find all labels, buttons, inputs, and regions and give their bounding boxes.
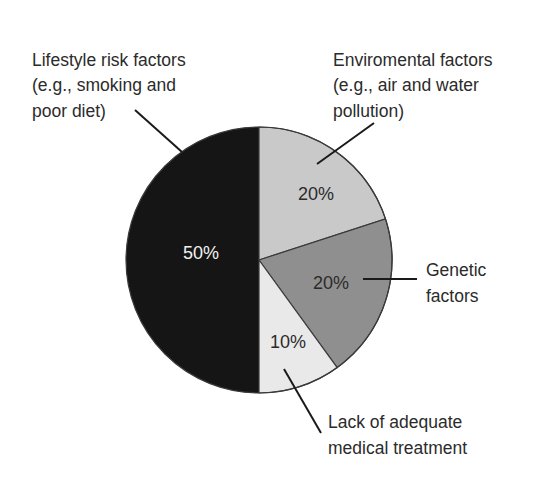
leader-environmental bbox=[317, 123, 374, 164]
label-medical: Lack of adequate medical treatment bbox=[328, 412, 467, 458]
leader-lifestyle bbox=[135, 110, 182, 152]
svg-text:Enviromental factors: Enviromental factors bbox=[333, 50, 493, 70]
svg-text:factors: factors bbox=[426, 286, 479, 306]
pct-environmental: 20% bbox=[298, 184, 334, 204]
svg-text:medical treatment: medical treatment bbox=[328, 438, 467, 458]
label-environmental: Enviromental factors (e.g., air and wate… bbox=[333, 50, 493, 121]
svg-text:pollution): pollution) bbox=[333, 101, 404, 121]
svg-text:Lifestyle risk factors: Lifestyle risk factors bbox=[32, 50, 186, 70]
svg-text:Genetic: Genetic bbox=[426, 260, 487, 280]
svg-text:(e.g., smoking and: (e.g., smoking and bbox=[32, 75, 176, 95]
pct-genetic: 20% bbox=[313, 273, 349, 293]
svg-text:Lack of adequate: Lack of adequate bbox=[328, 412, 462, 432]
pie-chart: 20% 20% 10% 50% Lifestyle risk factors (… bbox=[0, 0, 542, 478]
label-lifestyle: Lifestyle risk factors (e.g., smoking an… bbox=[32, 50, 186, 121]
svg-text:(e.g., air and water: (e.g., air and water bbox=[333, 75, 479, 95]
label-genetic: Genetic factors bbox=[426, 260, 487, 306]
pct-lifestyle: 50% bbox=[183, 243, 219, 263]
pct-medical: 10% bbox=[270, 332, 306, 352]
svg-text:poor diet): poor diet) bbox=[32, 101, 106, 121]
